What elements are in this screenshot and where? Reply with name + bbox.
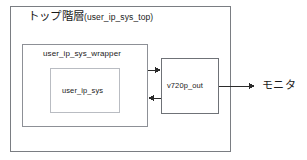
block-label-user-ip-sys: user_ip_sys: [62, 87, 103, 95]
block-label-user-ip-sys-wrapper: user_ip_sys_wrapper: [43, 50, 121, 58]
block-label-v720p-out: v720p_out: [167, 82, 203, 90]
external-label-monitor: モニタ: [262, 80, 296, 91]
diagram-canvas: トップ階層(user_ip_sys_top) user_ip_sys_wrapp…: [0, 0, 307, 160]
block-label-user-ip-sys-top: トップ階層(user_ip_sys_top): [28, 11, 153, 23]
block-label-user-ip-sys-top-jp: トップ階層: [28, 10, 84, 22]
arrowhead-right-into-monitor: [249, 83, 255, 89]
block-label-user-ip-sys-top-paren: (user_ip_sys_top): [84, 12, 153, 22]
